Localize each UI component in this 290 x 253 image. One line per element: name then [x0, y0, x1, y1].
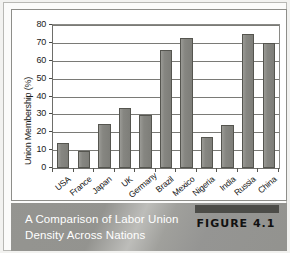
- x-tick-mark: [216, 168, 217, 172]
- bar: [119, 108, 131, 168]
- figure-outer-frame: Union Membership (%) 01020304050607080 U…: [3, 2, 287, 251]
- y-tick-label: 20: [20, 127, 46, 136]
- y-tick-label: 40: [20, 91, 46, 100]
- y-tick-mark: [49, 149, 52, 150]
- x-tick-mark: [155, 168, 156, 172]
- bar: [139, 115, 151, 168]
- x-tick-mark: [257, 168, 258, 172]
- x-tick-mark: [114, 168, 115, 172]
- y-tick-mark: [49, 131, 52, 132]
- x-tick-mark: [134, 168, 135, 172]
- x-tick-mark: [237, 168, 238, 172]
- figure-number-label: FIGURE 4.1: [195, 217, 277, 230]
- y-tick-mark: [49, 42, 52, 43]
- bar: [78, 151, 90, 168]
- y-tick-label: 30: [20, 109, 46, 118]
- y-tick-mark: [49, 24, 52, 25]
- y-tick-mark: [49, 78, 52, 79]
- bar: [221, 125, 233, 168]
- x-tick-mark: [175, 168, 176, 172]
- bar: [57, 143, 69, 168]
- caption-line-1: A Comparison of Labor Union: [25, 211, 205, 227]
- caption-band: A Comparison of Labor Union Density Acro…: [11, 203, 287, 251]
- y-tick-mark: [49, 113, 52, 114]
- y-tick-label: 10: [20, 145, 46, 154]
- bar: [201, 137, 213, 168]
- plot-area: [52, 24, 280, 169]
- figure-root: Union Membership (%) 01020304050607080 U…: [0, 0, 290, 253]
- y-tick-label: 60: [20, 55, 46, 64]
- bar: [160, 50, 172, 168]
- bar: [98, 124, 110, 168]
- chart-panel: Union Membership (%) 01020304050607080 U…: [11, 9, 287, 201]
- figure-tab-bar: [195, 205, 279, 213]
- caption-text: A Comparison of Labor Union Density Acro…: [25, 211, 205, 243]
- y-tick-label: 70: [20, 37, 46, 46]
- gridline: [53, 25, 279, 26]
- bar: [263, 43, 275, 168]
- x-tick-mark: [196, 168, 197, 172]
- bar: [180, 38, 192, 168]
- y-tick-mark: [49, 60, 52, 61]
- bar: [242, 34, 254, 168]
- y-tick-mark: [49, 96, 52, 97]
- x-tick-mark: [278, 168, 279, 172]
- x-tick-mark: [52, 168, 53, 172]
- x-tick-mark: [93, 168, 94, 172]
- x-tick-mark: [73, 168, 74, 172]
- y-tick-label: 0: [20, 163, 46, 172]
- y-tick-label: 80: [20, 20, 46, 29]
- y-tick-label: 50: [20, 73, 46, 82]
- caption-line-2: Density Across Nations: [25, 227, 205, 243]
